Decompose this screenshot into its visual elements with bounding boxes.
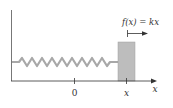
spring-mass-diagram: 0 x x f(x) = kx: [0, 0, 173, 108]
force-arrow-icon: [142, 31, 148, 35]
mass-block: [118, 42, 135, 81]
axis-label: x: [152, 84, 157, 94]
force-label: f(x) = kx: [121, 17, 159, 27]
x-axis-arrowhead: [151, 79, 157, 84]
spring: [12, 58, 118, 66]
position-label: x: [124, 88, 129, 98]
origin-label: 0: [72, 88, 78, 98]
